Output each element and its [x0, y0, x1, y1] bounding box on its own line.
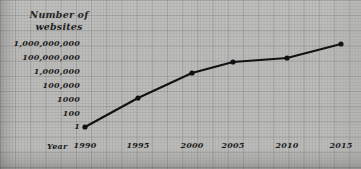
data-point-marker — [135, 95, 140, 100]
x-axis-tick-label: 1995 — [118, 141, 158, 150]
data-point-marker — [189, 70, 194, 75]
data-point-marker — [284, 55, 289, 60]
chart-screenshot: Number of websites 1,000,000,000 100,000… — [0, 0, 361, 169]
x-axis-tick-label: 1990 — [65, 141, 105, 150]
x-axis-tick-label: 2005 — [213, 141, 253, 150]
data-point-marker — [338, 41, 343, 46]
x-axis-tick-label: 2000 — [172, 141, 212, 150]
data-series-line — [85, 44, 341, 127]
data-point-marker — [82, 124, 87, 129]
x-axis-tick-label: 2015 — [321, 141, 361, 150]
x-axis-tick-label: 2010 — [267, 141, 307, 150]
data-point-marker — [230, 59, 235, 64]
